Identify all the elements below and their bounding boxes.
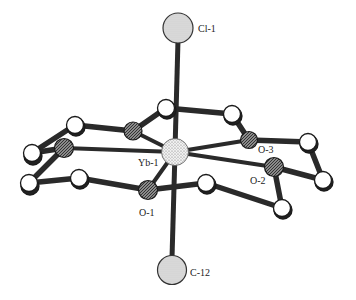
bond-cl1-yb1 <box>175 40 178 150</box>
carbon-atom <box>315 172 334 192</box>
label-cl1: Cl-1 <box>198 23 216 34</box>
molecular-structure-diagram: Cl-1 Yb-1 O-1 O-2 O-3 C-12 <box>0 0 356 300</box>
carbon-atom <box>67 117 86 137</box>
label-o2: O-2 <box>250 175 266 186</box>
carbon-atom-c12 <box>158 256 187 285</box>
oxygen-atom <box>124 122 142 140</box>
carbon-atom <box>300 134 319 154</box>
carbon-atom <box>158 100 177 120</box>
carbon-atom <box>21 175 40 196</box>
chlorine-atom-cl1 <box>163 13 193 43</box>
label-o3: O-3 <box>258 144 274 155</box>
oxygen-atom-o3 <box>241 132 258 149</box>
carbon-atom <box>71 170 90 190</box>
label-yb1: Yb-1 <box>138 157 159 168</box>
label-c12: C-12 <box>190 267 210 278</box>
label-o1: O-1 <box>139 207 155 218</box>
ytterbium-atom-yb1 <box>162 139 189 166</box>
oxygen-atom-o2 <box>265 158 284 177</box>
carbon-atom <box>274 200 293 220</box>
bond-yb-o <box>64 148 175 152</box>
oxygen-atom-o1 <box>139 181 158 200</box>
bond <box>206 183 282 208</box>
oxygen-atom <box>55 139 74 158</box>
carbon-atom <box>224 106 243 126</box>
carbon-atom <box>198 175 217 195</box>
carbon-atom <box>24 145 43 166</box>
bond-yb1-c12 <box>172 152 175 258</box>
